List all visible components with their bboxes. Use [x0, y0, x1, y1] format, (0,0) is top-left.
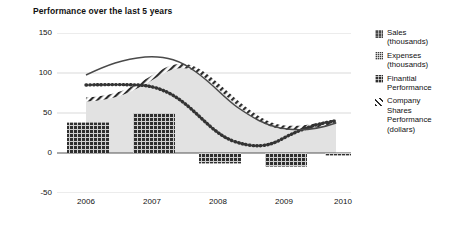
y-axis: 150 100 50 0 -50: [22, 33, 52, 193]
legend-label-finantial-line1: Finantial: [387, 74, 416, 83]
y-tick-neg50: -50: [26, 188, 52, 198]
legend-label-company-shares-performance: Company Shares Performance (dollars): [387, 96, 432, 134]
legend-item-expenses[interactable]: Expenses (thousands): [375, 51, 460, 70]
legend-label-company-line4: (dollars): [387, 125, 415, 134]
legend-label-sales-line1: Sales: [387, 28, 407, 37]
chart-title: Performance over the last 5 years: [33, 6, 172, 16]
legend-label-sales-line2: (thousands): [387, 37, 428, 46]
chart-legend: Sales (thousands) Expenses (thousands) F…: [375, 28, 460, 138]
legend-label-sales: Sales (thousands): [387, 28, 428, 47]
bar-2008: [199, 153, 241, 163]
y-tick-150: 150: [26, 28, 52, 38]
bar-2009: [265, 153, 307, 167]
legend-label-finantial-line2: Performance: [387, 83, 432, 92]
plot-svg: [57, 33, 351, 193]
plot-area: [57, 33, 351, 193]
chart-container: Performance over the last 5 years 150 10…: [0, 0, 460, 231]
sales-swatch-icon: [375, 30, 383, 38]
expenses-swatch-icon: [375, 52, 383, 60]
y-tick-50: 50: [26, 108, 52, 118]
legend-label-expenses: Expenses (thousands): [387, 51, 428, 70]
legend-label-company-line3: Performance: [387, 115, 432, 124]
y-tick-0: 0: [26, 148, 52, 158]
legend-label-company-line1: Company: [387, 96, 420, 105]
legend-label-expenses-line1: Expenses: [387, 51, 421, 60]
bar-2007: [133, 113, 175, 153]
company-shares-swatch-icon: [375, 98, 383, 106]
x-axis: 2006 2007 2008 2009 2010: [57, 196, 351, 212]
x-tick-2008: 2008: [198, 196, 238, 207]
x-tick-2009: 2009: [264, 196, 304, 207]
legend-label-expenses-line2: (thousands): [387, 60, 428, 69]
bar-2006: [67, 123, 109, 153]
x-tick-2007: 2007: [132, 196, 172, 207]
finantial-performance-swatch-icon: [375, 75, 383, 83]
legend-label-finantial-performance: Finantial Performance: [387, 74, 432, 93]
legend-item-company-shares-performance[interactable]: Company Shares Performance (dollars): [375, 96, 460, 134]
legend-label-company-line2: Shares: [387, 106, 412, 115]
bar-2010: [325, 153, 351, 155]
legend-item-sales[interactable]: Sales (thousands): [375, 28, 460, 47]
x-tick-2006: 2006: [66, 196, 106, 207]
x-tick-2010: 2010: [323, 196, 363, 207]
y-tick-100: 100: [26, 68, 52, 78]
legend-item-finantial-performance[interactable]: Finantial Performance: [375, 74, 460, 93]
